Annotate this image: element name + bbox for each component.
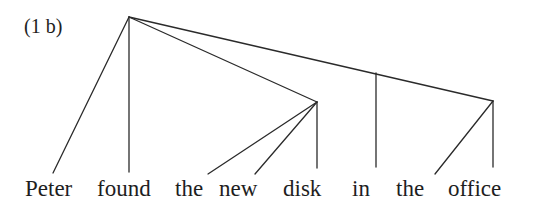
word-found: found — [97, 176, 151, 202]
edge-root-Peter — [53, 17, 129, 173]
word-peter: Peter — [25, 176, 72, 202]
word-office: office — [448, 176, 501, 202]
word-the-1: the — [175, 176, 203, 202]
example-label: (1 b) — [24, 14, 62, 38]
edge-np_object-the — [208, 102, 317, 174]
edge-root-np_office — [129, 17, 493, 101]
word-in: in — [352, 176, 370, 202]
dependency-tree-diagram: (1 b) Peter found the new disk in the of… — [0, 0, 542, 214]
word-disk: disk — [283, 176, 321, 202]
edge-np_object-new — [255, 102, 317, 174]
word-the-2: the — [396, 176, 424, 202]
word-new: new — [219, 176, 257, 202]
edge-np_office-the — [435, 101, 493, 174]
edge-root-np_object — [129, 17, 317, 102]
